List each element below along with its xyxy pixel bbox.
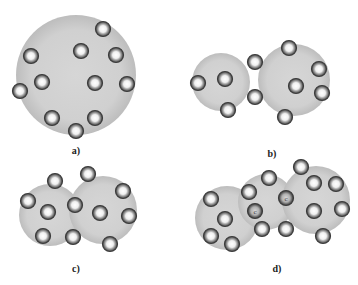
panel-label-b: b): [268, 148, 277, 159]
particle-ball: [316, 229, 331, 244]
panel-label-a: a): [72, 145, 80, 156]
figure-canvas: cc a) b) c) d): [0, 0, 358, 285]
particle-ball: [218, 72, 233, 87]
particle-ball: [282, 41, 297, 56]
particle-ball: [45, 111, 60, 126]
particle-ball: [204, 229, 219, 244]
particle-ball: [204, 192, 219, 207]
particle-ball: [307, 176, 322, 191]
particle-ball: [120, 77, 135, 92]
particle-ball: [81, 167, 96, 182]
particle-ball: [48, 174, 63, 189]
particle-ball: [255, 222, 270, 237]
particle-ball: [242, 185, 257, 200]
particle-ball: [218, 212, 233, 227]
particle-ball: [69, 124, 84, 139]
particle-ball: [35, 75, 50, 90]
cluster-layer: [16, 15, 350, 250]
particle-ball: [109, 48, 124, 63]
panel-label-c: c): [72, 263, 80, 274]
particle-ball: [329, 177, 344, 192]
particle-ball: [278, 110, 293, 125]
particle-ball: [191, 76, 206, 91]
particle-ball: [221, 103, 236, 118]
particle-ball: [24, 49, 39, 64]
particle-ball: [96, 22, 111, 37]
cluster-diagram: cc: [0, 0, 358, 285]
particle-ball: [21, 194, 36, 209]
particle-ball: [41, 205, 56, 220]
particle-ball: [13, 84, 28, 99]
particle-ball: [294, 160, 309, 175]
particle-ball: [122, 209, 137, 224]
particle-ball: [88, 111, 103, 126]
particle-ball: [262, 171, 277, 186]
particle-ball: [66, 230, 81, 245]
particle-ball: [103, 237, 118, 252]
particle-ball-labeled: c: [279, 191, 294, 206]
particle-ball: [315, 86, 330, 101]
particle-ball: [74, 44, 89, 59]
panel-label-d: d): [273, 263, 282, 274]
particle-ball: [36, 229, 51, 244]
particle-ball: [88, 76, 103, 91]
particle-ball: [335, 202, 350, 217]
particle-ball: [289, 79, 304, 94]
particle-ball: [116, 184, 131, 199]
particle-ball: [225, 237, 240, 252]
particle-ball: [279, 222, 294, 237]
particle-ball: [248, 55, 263, 70]
particle-ball: [312, 62, 327, 77]
particle-ball: [248, 90, 263, 105]
particle-ball: [68, 198, 83, 213]
svg-text:c: c: [284, 195, 287, 203]
cluster-sphere-a: [16, 15, 136, 135]
svg-text:c: c: [253, 208, 256, 216]
particle-ball: [93, 206, 108, 221]
particle-ball-labeled: c: [248, 204, 263, 219]
particle-ball: [307, 204, 322, 219]
